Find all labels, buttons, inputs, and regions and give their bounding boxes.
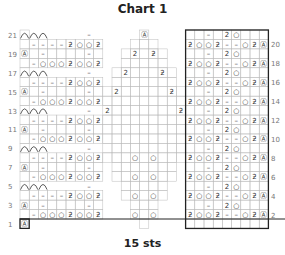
- stitch-symbol: ƻ: [216, 211, 220, 219]
- stitch-symbol: ○: [233, 107, 239, 115]
- stitch-symbol: ƻ: [216, 154, 220, 162]
- chart-cell: [20, 58, 29, 67]
- chart-cell: [149, 96, 158, 105]
- stitch-symbol: ƻ: [188, 135, 192, 143]
- stitch-symbol: –: [41, 41, 45, 49]
- chart-cell: [259, 162, 268, 171]
- chart-cell: [241, 181, 250, 190]
- chart-cell: [195, 200, 204, 209]
- stitch-symbol: ○: [233, 164, 239, 172]
- stitch-symbol: ○: [49, 98, 55, 106]
- stitch-symbol: ƻ: [96, 154, 100, 162]
- chart-cell: [167, 77, 176, 86]
- chart-cell: [130, 200, 139, 209]
- stitch-symbol: –: [234, 60, 238, 68]
- stitch-symbol: ○: [206, 173, 212, 181]
- chart-cell: [250, 162, 259, 171]
- stitch-symbol: ƻ: [96, 41, 100, 49]
- chart-cell: [140, 39, 149, 48]
- stitch-symbol: ƻ: [252, 117, 256, 125]
- chart-cell: [130, 68, 139, 77]
- chart-cell: [158, 134, 167, 143]
- stitch-symbol: –: [32, 154, 36, 162]
- chart-cell: [149, 200, 158, 209]
- chart-cell: [167, 143, 176, 152]
- chart-cell: [130, 106, 139, 115]
- chart-cell: [75, 200, 84, 209]
- stitch-symbol: 2: [114, 88, 118, 96]
- stitch-symbol: –: [207, 202, 211, 210]
- chart-cell: [259, 87, 268, 96]
- stitch-symbol: –: [50, 117, 54, 125]
- chart-cell: [149, 143, 158, 152]
- chart-cell: [213, 30, 222, 39]
- chart-cell: [149, 58, 158, 67]
- row-label: 5: [8, 183, 12, 191]
- chart-cell: [140, 210, 149, 219]
- chart-cell: [130, 115, 139, 124]
- stitch-symbol: ƻ: [68, 98, 72, 106]
- chart-cell: [195, 125, 204, 134]
- stitch-symbol: Ⓐ: [21, 50, 28, 58]
- chart-cell: [167, 162, 176, 171]
- chart-cell: [176, 115, 185, 124]
- stitch-symbol: ƻ: [252, 211, 256, 219]
- stitch-symbol: ○: [242, 98, 248, 106]
- chart-cell: [176, 87, 185, 96]
- stitch-symbol: ○: [196, 154, 202, 162]
- stitch-symbol: –: [234, 211, 238, 219]
- chart-cell: [167, 115, 176, 124]
- chart-cell: [158, 143, 167, 152]
- chart-cell: [186, 143, 195, 152]
- stitch-symbol: ○: [233, 50, 239, 58]
- chart-cell: [140, 162, 149, 171]
- chart-cell: [130, 134, 139, 143]
- chart-cell: [241, 106, 250, 115]
- chart-cell: [130, 181, 139, 190]
- stitch-symbol: ○: [86, 79, 92, 87]
- chart-cell: [29, 49, 38, 58]
- stitch-symbol: ○: [77, 211, 83, 219]
- stitch-symbol: ƻ: [252, 154, 256, 162]
- stitch-symbol: –: [225, 173, 229, 181]
- chart-cell: [29, 125, 38, 134]
- row-label: 3: [8, 202, 12, 210]
- stitch-symbol: –: [41, 126, 45, 134]
- stitch-symbol: ○: [86, 154, 92, 162]
- row-label: 15: [8, 89, 17, 97]
- stitch-symbol: Ⓐ: [141, 31, 148, 39]
- chart-cell: [112, 134, 121, 143]
- stitch-symbol: –: [207, 50, 211, 58]
- stitch-symbol: Ⓐ: [21, 126, 28, 134]
- stitch-symbol: ƻ: [252, 192, 256, 200]
- row-label: 21: [8, 32, 17, 40]
- stitch-symbol: ƻ: [96, 211, 100, 219]
- row-label: 11: [8, 126, 17, 134]
- stitch-symbol: –: [225, 41, 229, 49]
- cable-arc-icon: [21, 109, 29, 114]
- stitch-symbol: ○: [150, 211, 156, 219]
- chart-cell: [57, 125, 66, 134]
- chart-cell: [140, 134, 149, 143]
- chart-cell: [259, 219, 268, 228]
- stitch-symbol: ○: [206, 192, 212, 200]
- stitch-symbol: ○: [58, 98, 64, 106]
- chart-cell: [121, 58, 130, 67]
- row-label: 10: [271, 136, 280, 144]
- stitch-symbol: –: [32, 41, 36, 49]
- chart-cell: [20, 134, 29, 143]
- chart-cell: [167, 134, 176, 143]
- stitch-symbol: –: [41, 154, 45, 162]
- cable-arc-icon: [30, 71, 38, 76]
- stitch-symbol: ○: [86, 192, 92, 200]
- stitch-symbol: –: [41, 117, 45, 125]
- chart-cell: [121, 115, 130, 124]
- chart-cell: [149, 77, 158, 86]
- stitch-symbol: –: [32, 98, 36, 106]
- chart-cell: [20, 30, 29, 39]
- chart-cell: [167, 106, 176, 115]
- chart-cell: [158, 87, 167, 96]
- chart-cell: [232, 219, 241, 228]
- chart-cell: [250, 68, 259, 77]
- chart-cell: [140, 200, 149, 209]
